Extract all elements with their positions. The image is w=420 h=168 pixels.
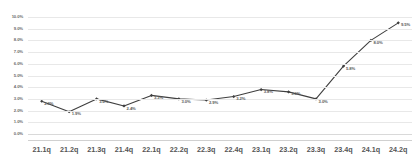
y-axis-tick-label: 8.0%: [14, 38, 23, 42]
x-axis-tick-label: 23.3q: [307, 146, 325, 153]
data-point-label: 3.0%: [319, 100, 328, 104]
gridline: [28, 17, 412, 18]
y-axis-tick-label: 5.0%: [14, 73, 23, 77]
x-axis-tick-label: 23.4q: [334, 146, 352, 153]
gridline: [28, 64, 412, 65]
data-point-label: 5.8%: [346, 67, 355, 71]
x-axis-tick-label: 21.3q: [87, 146, 105, 153]
x-axis-rule: [28, 140, 412, 141]
x-axis-tick-label: 24.1q: [362, 146, 380, 153]
data-point-marker: [260, 88, 263, 91]
data-point-label: 1.9%: [72, 112, 81, 116]
y-axis-tick-label: 1.0%: [14, 120, 23, 124]
data-point-label: 3.0%: [181, 100, 190, 104]
data-point-label: 3.2%: [236, 97, 245, 101]
data-point-label: 2.8%: [44, 102, 53, 106]
data-point-label: 3.8%: [264, 90, 273, 94]
data-point-marker: [122, 104, 125, 107]
x-axis-tick-label: 22.3q: [197, 146, 215, 153]
y-axis-tick-label: 4.0%: [14, 85, 23, 89]
data-point-label: 8.0%: [373, 41, 382, 45]
x-axis-tick-label: 22.4q: [225, 146, 243, 153]
data-point-label: 2.4%: [127, 107, 136, 111]
gridline: [28, 111, 412, 112]
y-axis-tick-label: 2.0%: [14, 108, 23, 112]
y-axis-tick-label: 7.0%: [14, 50, 23, 54]
gridline: [28, 122, 412, 123]
data-point-marker: [40, 100, 43, 103]
data-point-label: 3.3%: [154, 96, 163, 100]
gridline: [28, 52, 412, 53]
gridline: [28, 87, 412, 88]
x-axis: 21.1q21.2q21.3q21.4q22.1q22.2q22.3q22.4q…: [28, 146, 412, 160]
data-point-label: 9.5%: [401, 23, 410, 27]
x-axis-tick-label: 21.2q: [60, 146, 78, 153]
data-point-label: 3.0%: [99, 100, 108, 104]
gridline: [28, 134, 412, 135]
x-axis-tick-label: 23.1q: [252, 146, 270, 153]
data-point-marker: [287, 90, 290, 93]
x-axis-tick-label: 21.1q: [33, 146, 51, 153]
y-axis-tick-label: 3.0%: [14, 97, 23, 101]
x-axis-tick-label: 22.2q: [170, 146, 188, 153]
x-axis-tick-label: 22.1q: [142, 146, 160, 153]
line-chart: 0.0%1.0%2.0%3.0%4.0%5.0%6.0%7.0%8.0%9.0%…: [0, 0, 420, 168]
gridline: [28, 76, 412, 77]
plot-area: 2.8%1.9%3.0%2.4%3.3%3.0%2.9%3.2%3.8%3.6%…: [28, 17, 412, 134]
gridline: [28, 29, 412, 30]
data-point-label: 2.9%: [209, 101, 218, 105]
data-point-marker: [232, 95, 235, 98]
y-axis-tick-label: 6.0%: [14, 62, 23, 66]
data-point-marker: [150, 94, 153, 97]
x-axis-tick-label: 21.4q: [115, 146, 133, 153]
x-axis-tick-label: 23.2q: [279, 146, 297, 153]
gridline: [28, 40, 412, 41]
gridline: [28, 99, 412, 100]
data-point-label: 3.6%: [291, 92, 300, 96]
y-axis: 0.0%1.0%2.0%3.0%4.0%5.0%6.0%7.0%8.0%9.0%…: [0, 17, 26, 134]
y-axis-tick-label: 0.0%: [14, 132, 23, 136]
x-axis-tick-label: 24.2q: [389, 146, 407, 153]
y-axis-tick-label: 10.0%: [12, 15, 23, 19]
y-axis-tick-label: 9.0%: [14, 27, 23, 31]
